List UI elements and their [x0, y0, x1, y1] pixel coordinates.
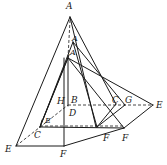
- label-g: G: [125, 96, 132, 105]
- label-c-left: C: [34, 131, 41, 140]
- label-c-right: C: [112, 96, 119, 105]
- label-h: H: [57, 97, 65, 106]
- label-e-inner: E: [45, 117, 51, 125]
- label-d: D: [69, 109, 76, 118]
- label-f-bottom: F: [60, 150, 66, 159]
- label-a-inner: A: [70, 49, 76, 57]
- label-a-top: A: [66, 2, 73, 11]
- label-f-right: F: [122, 134, 128, 143]
- diagram-lines: [0, 0, 167, 165]
- label-f-mid: F: [103, 134, 109, 143]
- label-e-left: E: [5, 145, 12, 154]
- geometry-diagram: A A A H B D E C E F F F C G E: [0, 0, 167, 165]
- label-b: B: [71, 96, 78, 105]
- label-e-right: E: [156, 101, 163, 110]
- label-a-mid: A: [72, 35, 78, 43]
